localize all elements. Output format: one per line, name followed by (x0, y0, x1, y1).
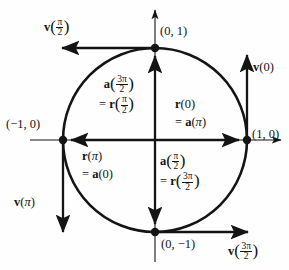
point-dot-left (59, 136, 67, 144)
label-eq-a-pi: = a(π) (175, 113, 206, 131)
label-point-bottom: (0, −1) (161, 238, 195, 251)
unit-circle-vector-diagram: v(π2) (0, 1) v(0) a(3π2) = r(π2) r(0) = … (0, 0, 289, 270)
label-eq-r-pi-2: = r(π2) (99, 95, 134, 115)
label-v-pi-arg: π (24, 195, 30, 209)
label-v-three-half-pi: v(3π2) (228, 242, 258, 262)
fraction-pi-over-2: π2 (56, 18, 63, 38)
paren-close: ) (64, 17, 70, 36)
label-point-right: (1, 0) (252, 128, 279, 141)
label-point-top: (0, 1) (160, 25, 187, 38)
label-v-half-pi: v(π2) (44, 18, 69, 38)
label-lower-right-interior: a(π2) = r(3π2) (160, 152, 200, 193)
point-dot-right (243, 136, 251, 144)
diagram-canvas (0, 0, 289, 270)
label-eq-a-0: = a(0) (82, 165, 113, 183)
label-point-left: (−1, 0) (6, 118, 40, 131)
fraction-3pi-over-2: 3π2 (240, 242, 252, 262)
label-v-zero: v(0) (253, 61, 274, 74)
label-a-3pi-2: a(3π2) (99, 75, 134, 95)
paren-open: ( (50, 17, 56, 36)
label-v-pi: v(π) (14, 196, 35, 209)
label-upper-right-interior: r(0) = a(π) (175, 95, 206, 131)
label-v-zero-arg: (0) (259, 60, 274, 74)
label-r-pi: r(π) (82, 147, 113, 165)
point-dot-bottom (151, 228, 159, 236)
label-eq-r-3pi-2: = r(3π2) (160, 172, 200, 192)
label-a-pi-2: a(π2) (160, 152, 200, 172)
point-dot-top (151, 44, 159, 52)
label-upper-left-interior: a(3π2) = r(π2) (99, 75, 134, 116)
label-lower-left-interior: r(π) = a(0) (82, 147, 113, 183)
label-v-pi-symbol: v (14, 195, 20, 209)
label-r-0: r(0) (175, 95, 206, 113)
